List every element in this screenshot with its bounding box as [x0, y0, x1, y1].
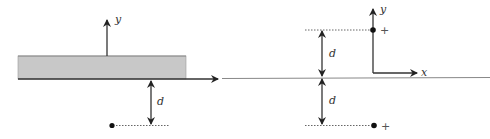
x-axis-extension: [222, 78, 490, 79]
distance-label-left: d: [157, 95, 164, 108]
distance-label-lower: d: [329, 94, 336, 107]
charge-sign-upper: +: [380, 24, 389, 37]
distance-label-upper: d: [329, 47, 336, 60]
right-panel: d d y x + +: [305, 3, 428, 133]
image-charge-diagram: y d d d y x + +: [0, 0, 490, 139]
left-panel: y d: [18, 13, 490, 128]
y-axis-label-right: y: [379, 3, 387, 16]
y-axis-label-left: y: [114, 13, 122, 26]
point-charge-left: [109, 123, 114, 128]
conducting-slab: [18, 56, 186, 79]
x-axis-label-right: x: [421, 66, 428, 79]
charge-sign-lower: +: [381, 120, 390, 133]
point-charge-upper: [370, 27, 376, 33]
point-charge-lower: [371, 123, 377, 129]
